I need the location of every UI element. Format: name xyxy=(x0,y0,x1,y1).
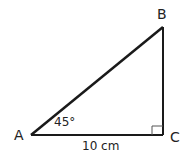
side-ab xyxy=(31,27,163,135)
vertex-label-b: B xyxy=(157,7,167,21)
triangle-figure xyxy=(0,0,187,159)
right-angle-marker xyxy=(152,126,163,135)
vertex-label-a: A xyxy=(14,128,24,142)
vertex-label-c: C xyxy=(170,130,180,144)
side-ac-length-label: 10 cm xyxy=(82,140,119,152)
angle-a-label: 45° xyxy=(54,116,75,128)
